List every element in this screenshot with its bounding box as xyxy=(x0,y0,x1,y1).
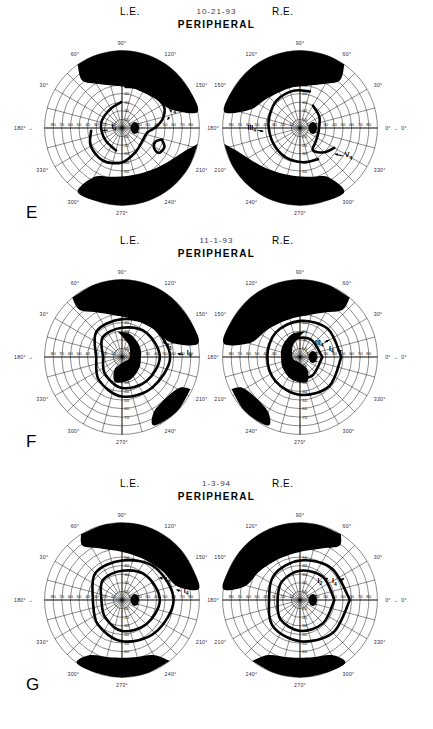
svg-text:330°: 330° xyxy=(36,639,48,645)
svg-text:30: 30 xyxy=(124,572,129,577)
panel-letter: F xyxy=(26,432,37,452)
svg-text:40: 40 xyxy=(85,594,90,599)
svg-text:30°: 30° xyxy=(40,82,49,88)
svg-text:150°: 150° xyxy=(214,82,226,88)
panel-letter: E xyxy=(26,203,38,223)
svg-text:40: 40 xyxy=(85,351,90,356)
svg-text:40: 40 xyxy=(124,632,129,637)
panel-letter: G xyxy=(26,675,40,695)
svg-text:40: 40 xyxy=(332,122,337,127)
svg-text:240°: 240° xyxy=(165,428,177,434)
svg-text:V4: V4 xyxy=(345,151,353,160)
svg-text:120°: 120° xyxy=(245,280,257,286)
svg-text:70: 70 xyxy=(237,594,242,599)
svg-text:30: 30 xyxy=(302,100,307,105)
svg-text:50: 50 xyxy=(163,122,168,127)
svg-text:50: 50 xyxy=(302,398,307,403)
svg-text:70: 70 xyxy=(358,122,363,127)
svg-text:210°: 210° xyxy=(214,639,226,645)
svg-text:80: 80 xyxy=(51,351,56,356)
svg-text:← 0°: ← 0° xyxy=(394,597,407,603)
svg-text:30°: 30° xyxy=(374,311,383,317)
perimetry-chart-E: 1010202030304040505060607070808010102020… xyxy=(0,0,433,229)
svg-text:30: 30 xyxy=(94,594,99,599)
svg-text:90°: 90° xyxy=(296,512,305,518)
svg-text:30: 30 xyxy=(302,151,307,156)
svg-text:240°: 240° xyxy=(245,671,257,677)
svg-text:60°: 60° xyxy=(343,51,352,57)
svg-text:20: 20 xyxy=(280,594,285,599)
svg-text:30°: 30° xyxy=(374,554,383,560)
svg-text:60: 60 xyxy=(302,406,307,411)
svg-text:30: 30 xyxy=(94,122,99,127)
svg-text:50: 50 xyxy=(255,351,260,356)
svg-text:30: 30 xyxy=(302,623,307,628)
svg-text:50: 50 xyxy=(77,594,82,599)
svg-text:330°: 330° xyxy=(374,167,386,173)
svg-text:70: 70 xyxy=(358,351,363,356)
svg-text:0°: 0° xyxy=(385,125,391,131)
svg-text:80: 80 xyxy=(51,122,56,127)
svg-text:20: 20 xyxy=(102,122,107,127)
perimetry-chart-F: 1010202030304040505060607070808010102020… xyxy=(0,229,433,458)
svg-text:20: 20 xyxy=(102,594,107,599)
svg-text:70: 70 xyxy=(59,122,64,127)
svg-text:90°: 90° xyxy=(118,40,127,46)
svg-text:40: 40 xyxy=(85,122,90,127)
svg-text:90°: 90° xyxy=(118,512,127,518)
svg-text:240°: 240° xyxy=(165,671,177,677)
svg-text:I4: I4 xyxy=(329,345,334,354)
svg-text:30: 30 xyxy=(272,594,277,599)
svg-text:180°: 180° xyxy=(207,354,219,360)
svg-text:270°: 270° xyxy=(294,439,306,445)
svg-text:180° →: 180° → xyxy=(14,354,33,360)
svg-text:20: 20 xyxy=(302,108,307,113)
svg-text:150°: 150° xyxy=(214,311,226,317)
svg-text:← 0°: ← 0° xyxy=(394,354,407,360)
svg-text:150°: 150° xyxy=(196,554,208,560)
svg-text:30: 30 xyxy=(302,572,307,577)
svg-text:120°: 120° xyxy=(245,51,257,57)
svg-text:10: 10 xyxy=(302,134,307,139)
svg-text:20: 20 xyxy=(124,108,129,113)
svg-text:30°: 30° xyxy=(40,311,49,317)
svg-text:80: 80 xyxy=(229,351,234,356)
svg-text:70: 70 xyxy=(358,594,363,599)
svg-text:150°: 150° xyxy=(196,82,208,88)
svg-text:80: 80 xyxy=(188,594,193,599)
svg-text:90°: 90° xyxy=(118,269,127,275)
svg-text:50: 50 xyxy=(302,169,307,174)
svg-text:60°: 60° xyxy=(71,523,80,529)
svg-text:0°: 0° xyxy=(385,354,391,360)
svg-text:300°: 300° xyxy=(343,671,355,677)
svg-text:50: 50 xyxy=(77,351,82,356)
svg-text:180° →: 180° → xyxy=(14,125,33,131)
svg-text:30°: 30° xyxy=(40,554,49,560)
svg-text:60: 60 xyxy=(246,594,251,599)
svg-text:30: 30 xyxy=(145,351,150,356)
svg-text:50: 50 xyxy=(163,594,168,599)
svg-text:60°: 60° xyxy=(343,280,352,286)
svg-text:10: 10 xyxy=(124,346,129,351)
svg-text:240°: 240° xyxy=(245,199,257,205)
svg-text:20: 20 xyxy=(302,143,307,148)
svg-text:270°: 270° xyxy=(294,210,306,216)
svg-text:120°: 120° xyxy=(165,280,177,286)
svg-text:50: 50 xyxy=(255,594,260,599)
svg-text:10: 10 xyxy=(124,117,129,122)
svg-text:60: 60 xyxy=(171,351,176,356)
svg-text:180°: 180° xyxy=(207,597,219,603)
svg-text:10: 10 xyxy=(111,351,116,356)
svg-text:70: 70 xyxy=(237,351,242,356)
svg-text:150°: 150° xyxy=(196,311,208,317)
svg-text:30: 30 xyxy=(272,122,277,127)
svg-text:90°: 90° xyxy=(296,269,305,275)
svg-text:10: 10 xyxy=(124,134,129,139)
svg-text:60: 60 xyxy=(349,122,354,127)
svg-text:270°: 270° xyxy=(294,682,306,688)
svg-text:30: 30 xyxy=(124,623,129,628)
svg-text:210°: 210° xyxy=(214,167,226,173)
perimetry-chart-G: 1010202030304040505060607070808010102020… xyxy=(0,472,433,701)
svg-text:80: 80 xyxy=(229,122,234,127)
svg-text:40: 40 xyxy=(124,91,129,96)
